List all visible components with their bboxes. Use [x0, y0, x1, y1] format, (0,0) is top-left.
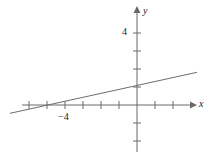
x-axis-arrowhead: [190, 102, 197, 109]
data-line-series: [10, 72, 197, 113]
y-axis-label: y: [143, 6, 147, 16]
x-axis-label: x: [199, 99, 203, 109]
x-axis-tick-label-minus-4: −4: [58, 112, 69, 122]
y-axis-arrowhead: [134, 6, 141, 13]
y-axis-tick-label-4: 4: [122, 27, 127, 37]
graph-figure: 4 −4 x y: [0, 0, 216, 168]
coordinate-plane-svg: [0, 0, 216, 168]
